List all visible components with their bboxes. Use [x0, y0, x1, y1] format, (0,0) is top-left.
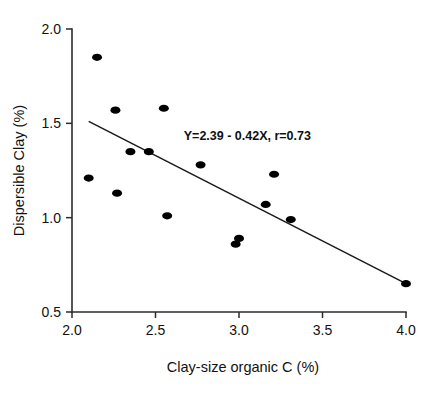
data-point	[162, 212, 172, 219]
data-point	[125, 148, 135, 155]
x-axis-tick-label: 2.0	[62, 322, 82, 338]
regression-fit-line	[89, 121, 406, 283]
chart-canvas: 0.51.01.52.02.02.53.03.54.0Y=2.39 - 0.42…	[0, 0, 440, 396]
y-axis-tick-label: 1.0	[42, 210, 62, 226]
data-point	[110, 107, 120, 114]
data-point	[84, 174, 94, 181]
data-point	[92, 54, 102, 61]
data-point	[401, 280, 411, 287]
x-axis-title: Clay-size organic C (%)	[167, 359, 319, 375]
data-point	[144, 148, 154, 155]
y-axis-tick-label: 0.5	[42, 304, 62, 320]
y-axis-tick-label: 1.5	[42, 115, 62, 131]
data-point	[159, 105, 169, 112]
x-axis-tick-label: 2.5	[146, 322, 166, 338]
regression-equation-label: Y=2.39 - 0.42X, r=0.73	[184, 129, 311, 143]
data-point	[286, 216, 296, 223]
x-axis-tick-label: 3.0	[229, 322, 249, 338]
data-point	[196, 161, 206, 168]
y-axis-title: Dispersible Clay (%)	[11, 105, 27, 236]
x-axis-tick-label: 4.0	[396, 322, 416, 338]
data-point	[112, 190, 122, 197]
y-axis-tick-label: 2.0	[42, 21, 62, 37]
x-axis-tick-label: 3.5	[313, 322, 333, 338]
scatter-plot-figure: 0.51.01.52.02.02.53.03.54.0Y=2.39 - 0.42…	[0, 0, 440, 396]
data-point	[231, 240, 241, 247]
data-point	[261, 201, 271, 208]
data-point	[269, 171, 279, 178]
